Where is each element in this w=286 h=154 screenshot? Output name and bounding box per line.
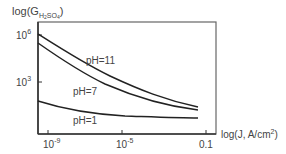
label-ph11: pH=11 <box>86 55 115 66</box>
label-ph1: pH=1 <box>73 115 98 126</box>
y-tick-label: 103 <box>16 75 31 88</box>
chart: log(GH2SO4) 106 103 10-9 10-5 0.1 log(J,… <box>0 0 286 154</box>
x-axis-title: log(J, A/cm2) <box>221 128 278 140</box>
x-tick-label: 10-5 <box>116 137 133 150</box>
x-tick-label: 0.1 <box>199 139 213 150</box>
series-ph1-line <box>38 101 198 118</box>
label-ph7: pH=7 <box>73 86 98 97</box>
series-ph7-line <box>38 43 198 110</box>
y-tick-label: 106 <box>16 28 31 41</box>
y-axis-title: log(GH2SO4) <box>12 5 63 20</box>
series-ph11-line <box>38 34 198 107</box>
x-tick-label: 10-9 <box>43 137 60 150</box>
